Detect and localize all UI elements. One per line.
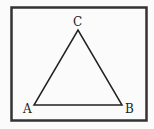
- vertex-label-c: C: [73, 15, 82, 29]
- vertex-label-a: A: [22, 102, 32, 116]
- diagram-canvas: A B C: [0, 0, 154, 129]
- vertex-label-b: B: [125, 102, 134, 116]
- triangle-abc: [34, 30, 122, 105]
